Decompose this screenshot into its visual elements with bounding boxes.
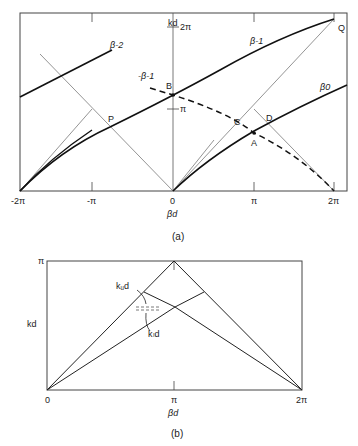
svg-text:D: D (266, 113, 273, 123)
svg-text:-π: -π (87, 196, 96, 206)
panel-b: kᵤd kₗd π kd 0 π 2π βd (b) (27, 256, 307, 439)
label-neg-beta-minus-1: -β-1 (138, 71, 154, 81)
svg-text:0: 0 (45, 395, 50, 405)
label-beta-minus-1: β-1 (249, 36, 263, 46)
svg-text:2π: 2π (296, 395, 307, 405)
kd-axis-label-b: kd (27, 319, 37, 329)
beta-d-axis-label: βd (166, 209, 178, 219)
svg-text:π: π (38, 256, 44, 266)
svg-text:2π: 2π (328, 196, 339, 206)
svg-text:-2π: -2π (11, 196, 25, 206)
light-lines (20, 19, 334, 191)
caption-b: (b) (171, 428, 183, 439)
svg-text:π: π (171, 395, 177, 405)
svg-text:2π: 2π (180, 22, 191, 32)
beta-d-axis-label-b: βd (167, 408, 179, 418)
label-ku-d: kᵤd (116, 281, 129, 291)
panel-b-frame (47, 261, 302, 390)
curve-beta-minus-2 (20, 50, 112, 97)
svg-text:Q: Q (338, 23, 345, 33)
svg-text:A: A (251, 138, 257, 148)
kd-axis-label: kd (168, 18, 178, 28)
panel-a: kd 2π π β-2 β-1 -β-1 β0 P B C D A Q -2π … (11, 13, 347, 242)
panel-a-frame (20, 13, 347, 191)
caption-a: (a) (172, 231, 184, 242)
svg-text:0: 0 (170, 196, 175, 206)
label-kl-d: kₗd (148, 329, 160, 339)
curve-beta-minus-1 (20, 19, 334, 191)
svg-text:P: P (108, 114, 114, 124)
label-beta-0: β0 (319, 82, 330, 92)
dispersion-diagram: kd 2π π β-2 β-1 -β-1 β0 P B C D A Q -2π … (0, 0, 358, 446)
svg-text:π: π (180, 104, 186, 114)
svg-text:B: B (166, 81, 172, 91)
svg-text:π: π (251, 196, 257, 206)
label-beta-minus-2: β-2 (109, 40, 123, 50)
svg-text:C: C (234, 117, 241, 127)
curve-beta-0 (173, 85, 347, 191)
